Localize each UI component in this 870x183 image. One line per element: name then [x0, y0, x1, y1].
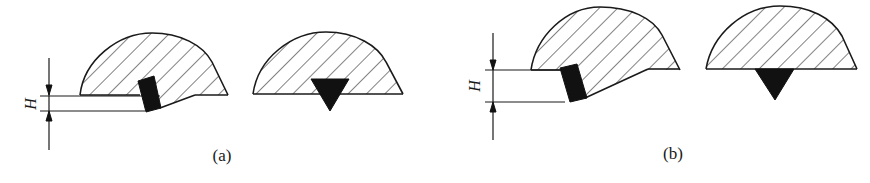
panel-a-centered-view: [253, 32, 403, 111]
weld-bead-b-offset: [531, 7, 680, 98]
penetration-triangle-b: [755, 69, 794, 100]
diagram-canvas: H (a) H: [0, 0, 870, 183]
dimension-label-h: H: [22, 97, 39, 111]
panel-a-offset-view: H: [22, 33, 228, 150]
penetration-triangle-a: [311, 79, 349, 111]
caption-a: (a): [213, 146, 232, 165]
dimension-label-h: H: [466, 79, 483, 93]
panel-b-offset-view: H: [466, 7, 680, 140]
caption-b: (b): [663, 144, 683, 163]
panel-b-centered-view: [706, 6, 857, 100]
